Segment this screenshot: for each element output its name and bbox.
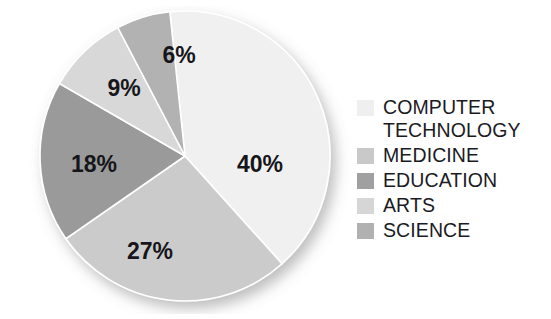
- pie-slice-value-label: 18%: [71, 151, 117, 177]
- pie-chart-plot-area: 40%27%18%9%6%: [22, 6, 352, 314]
- pie-slice-value-label: 40%: [237, 151, 283, 177]
- pie-slice-value-label: 9%: [107, 75, 140, 101]
- legend-item[interactable]: EDUCATION: [357, 169, 549, 192]
- legend-swatch-icon: [357, 148, 374, 164]
- legend: COMPUTER TECHNOLOGYMEDICINEEDUCATIONARTS…: [357, 96, 549, 244]
- legend-item-label: SCIENCE: [383, 219, 470, 242]
- legend-item-label: MEDICINE: [383, 144, 479, 167]
- legend-item-label: COMPUTER TECHNOLOGY: [383, 96, 521, 142]
- legend-item[interactable]: SCIENCE: [357, 219, 549, 242]
- legend-swatch-icon: [357, 173, 374, 189]
- legend-item-label: ARTS: [383, 194, 435, 217]
- pie-chart-figure: 40%27%18%9%6% COMPUTER TECHNOLOGYMEDICIN…: [0, 0, 551, 319]
- pie-slice-value-label: 27%: [127, 238, 173, 264]
- pie-slice-value-label: 6%: [162, 42, 195, 68]
- legend-swatch-icon: [357, 198, 374, 214]
- legend-item[interactable]: ARTS: [357, 194, 549, 217]
- legend-item-label: EDUCATION: [383, 169, 497, 192]
- legend-item[interactable]: MEDICINE: [357, 144, 549, 167]
- legend-item[interactable]: COMPUTER TECHNOLOGY: [357, 96, 549, 142]
- legend-swatch-icon: [357, 100, 374, 116]
- pie-chart-svg: 40%27%18%9%6%: [22, 6, 352, 314]
- legend-swatch-icon: [357, 223, 374, 239]
